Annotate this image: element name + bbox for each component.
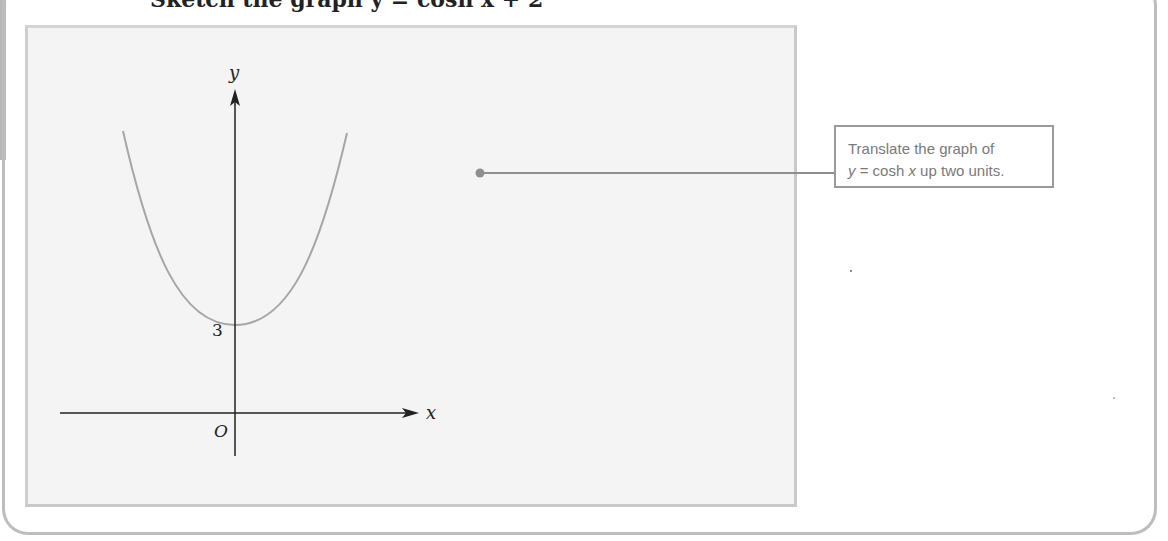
y-axis-label: y bbox=[228, 62, 240, 83]
graph-figure: y x O 3 bbox=[0, 0, 1168, 541]
speck bbox=[850, 270, 852, 272]
callout-line-1: Translate the graph of bbox=[848, 138, 1042, 160]
annotation-callout: Translate the graph of y = cosh x up two… bbox=[834, 125, 1054, 188]
origin-label: O bbox=[214, 421, 228, 441]
y-intercept-label: 3 bbox=[212, 320, 223, 340]
speck bbox=[1113, 397, 1115, 399]
x-axis-label: x bbox=[426, 402, 436, 423]
callout-line-2: y = cosh x up two units. bbox=[848, 160, 1042, 182]
